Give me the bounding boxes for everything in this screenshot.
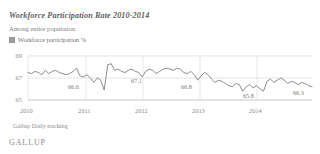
data-point-label-4: 65.8 [243,92,254,99]
gallup-chart-card: Workforce Participation Rate 2010-2014 A… [0,0,320,154]
data-point-label-3: 66.8 [181,83,192,90]
x-tick-label-2011: 2011 [78,107,91,114]
gridlines [28,56,312,100]
y-tick-label-67: 67 [6,74,22,81]
x-tick-label-2010: 2010 [20,107,33,114]
legend-label: Workforce participation % [18,36,86,43]
data-point-label-5: 66.3 [293,89,304,96]
x-tick-label-2012: 2012 [135,107,148,114]
line-chart-svg [0,47,320,105]
chart-subtitle: Among entire population [9,25,75,32]
gallup-logo: GALLUP [9,138,46,147]
chart-legend: Workforce participation % [9,36,86,43]
plot-area: 69 67 65 [0,47,320,105]
y-tick-label-65: 65 [6,96,22,103]
data-point-label-2: 67.1 [131,77,142,84]
x-tick-label-2014: 2014 [249,107,262,114]
y-tick-label-69: 69 [6,52,22,59]
x-tick-label-2013: 2013 [192,107,205,114]
data-point-label-1: 66.6 [68,83,79,90]
legend-swatch-icon [9,37,15,43]
chart-title: Workforce Participation Rate 2010-2014 [9,11,149,20]
source-note: Gallup Daily tracking [13,122,68,129]
